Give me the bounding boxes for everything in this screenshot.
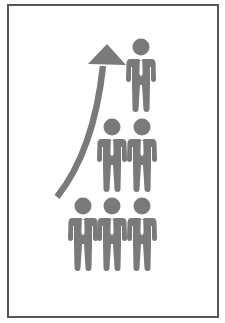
person-icon-bottom-left (68, 198, 98, 272)
person-icon-middle-left (97, 119, 127, 193)
person-icon-bottom-center (97, 198, 127, 272)
illustration-canvas (0, 0, 225, 323)
person-icon-bottom-right (127, 198, 157, 272)
person-icon-middle-right (127, 119, 157, 193)
growth-illustration (0, 0, 225, 323)
person-icon-top (126, 39, 156, 113)
